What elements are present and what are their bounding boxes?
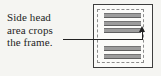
- figure-canvas: Side head area crops the frame.: [0, 0, 161, 76]
- text-line-bar: [104, 13, 141, 18]
- arrowhead-icon: [139, 26, 145, 32]
- callout-leader-line: [63, 39, 143, 41]
- callout-label-line-2: area crops: [7, 24, 53, 37]
- callout-label-line-1: Side head: [7, 11, 53, 24]
- text-line-bar: [104, 28, 141, 33]
- text-line-bar: [104, 46, 141, 51]
- callout-label: Side head area crops the frame.: [7, 11, 53, 49]
- callout-label-line-3: the frame.: [7, 36, 53, 49]
- text-line-bar: [104, 54, 141, 59]
- text-line-bar: [104, 21, 141, 26]
